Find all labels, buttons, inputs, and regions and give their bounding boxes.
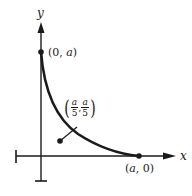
label-0-a: (0, a) bbox=[48, 47, 77, 58]
y-axis-label: y bbox=[37, 7, 44, 19]
y-axis-arrow-icon bbox=[38, 22, 45, 33]
label-a5-a5: (a5,a5) bbox=[63, 98, 97, 118]
point-0-a bbox=[38, 49, 44, 55]
fraction-y: a5 bbox=[81, 98, 88, 118]
point-a-0 bbox=[136, 153, 142, 159]
diagram: y x (0, a) (a, 0) (a5,a5) bbox=[0, 0, 192, 196]
leader-line bbox=[60, 127, 77, 141]
x-axis-label: x bbox=[180, 150, 187, 162]
x-axis-arrow-icon bbox=[163, 153, 176, 160]
label-a-0: (a, 0) bbox=[125, 163, 154, 174]
